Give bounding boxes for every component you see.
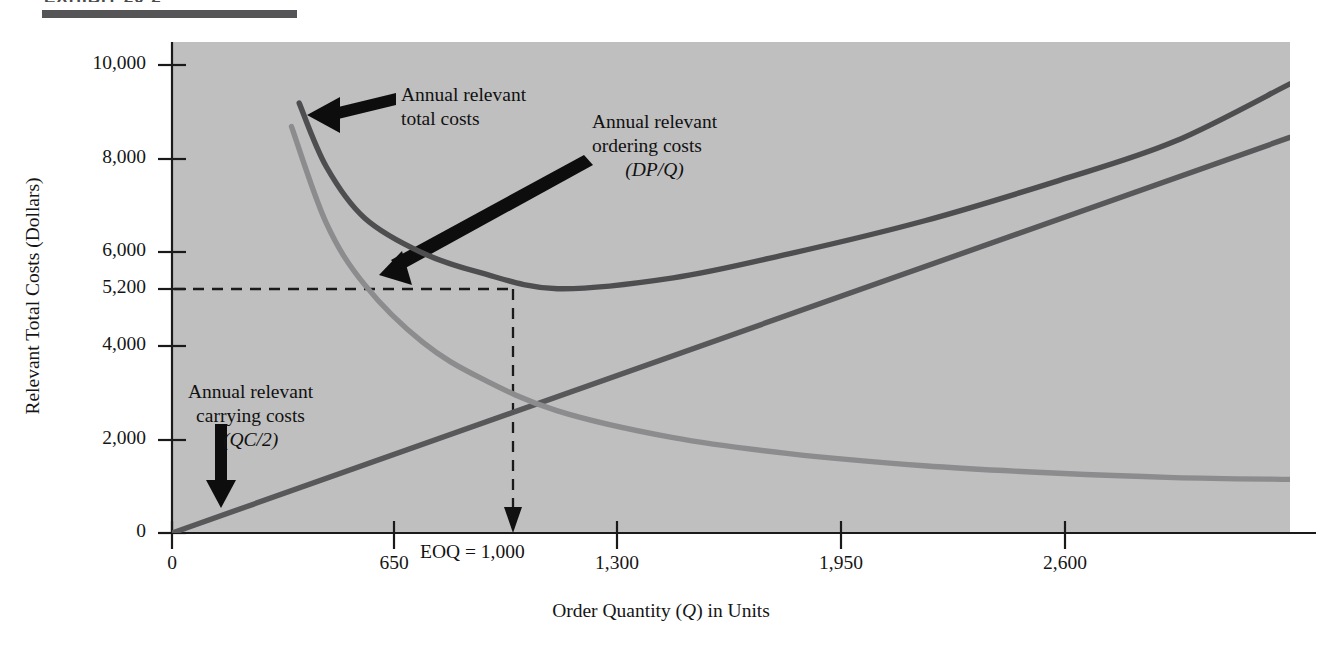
ytick-label-0: 0 (6, 520, 146, 542)
annotation-total-costs: Annual relevant total costs (401, 83, 526, 131)
arrow-ordering-costs (379, 155, 593, 285)
ytick-label-2000: 2,000 (6, 427, 146, 449)
annotation-carrying-costs-formula: (QC/2) (188, 428, 313, 452)
x-tick-marks (172, 521, 1065, 549)
ytick-label-10000: 10,000 (6, 52, 146, 74)
x-axis-title-variable: Q (682, 600, 696, 621)
annotation-ordering-costs-formula: (DP/Q) (592, 158, 717, 182)
xtick-label-2600: 2,600 (1015, 552, 1115, 574)
ytick-label-8000: 8,000 (6, 146, 146, 168)
annotation-carrying-costs-line-2: carrying costs (188, 404, 313, 428)
eoq-arrowhead (504, 507, 522, 533)
annotation-carrying-costs-line-1: Annual relevant (188, 380, 313, 404)
annotation-total-costs-line-1: Annual relevant (401, 83, 526, 107)
x-axis-title-part2: ) in Units (696, 600, 770, 621)
xtick-label-1300: 1,300 (567, 552, 667, 574)
y-axis-title: Relevant Total Costs (Dollars) (22, 166, 44, 426)
annotation-ordering-costs-line-2: ordering costs (592, 134, 717, 158)
x-axis-title-part1: Order Quantity ( (552, 600, 682, 621)
annotation-total-costs-line-2: total costs (401, 107, 526, 131)
annotation-ordering-costs-line-1: Annual relevant (592, 110, 717, 134)
xtick-label-0: 0 (122, 552, 222, 574)
annotation-carrying-costs: Annual relevant carrying costs (QC/2) (188, 380, 313, 452)
annotation-ordering-costs: Annual relevant ordering costs (DP/Q) (592, 110, 717, 182)
eoq-marker-label: EOQ = 1,000 (420, 541, 525, 563)
xtick-label-1950: 1,950 (791, 552, 891, 574)
arrow-total-costs (307, 93, 396, 133)
x-axis-title: Order Quantity (Q) in Units (511, 600, 811, 622)
figure-canvas: EXHIBIT 20-2 (0, 0, 1323, 655)
